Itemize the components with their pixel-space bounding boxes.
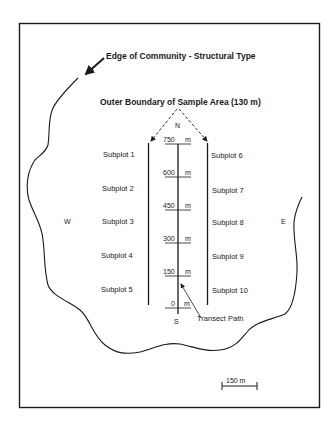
subplot-3-label: Subplot 3 [102,217,134,226]
subplot-6-label: Subplot 6 [211,151,243,160]
subplot-1-label: Subplot 1 [103,150,135,159]
marker-150-unit: m [185,267,191,276]
scale-bar-label: 150 m [226,376,245,385]
subplot-4-label: Subplot 4 [101,251,133,260]
edge-of-community-label: Edge of Community - Structural Type [106,52,256,61]
marker-450-value: 450 [163,201,175,210]
subplot-2-label: Subplot 2 [102,184,134,193]
marker-0-value: 0 [171,299,175,308]
marker-0-unit: m [184,299,190,308]
subplot-5-label: Subplot 5 [101,285,133,294]
diagram-canvas [0,0,332,429]
marker-150-value: 150 [163,267,175,276]
marker-600-unit: m [185,168,191,177]
boundary-arrow-right [179,109,207,141]
outer-boundary-label: Outer Boundary of Sample Area (130 m) [100,98,261,107]
transect-sampling-diagram: Edge of Community - Structural Type Oute… [0,0,332,429]
marker-750-value: 750 [163,135,175,144]
marker-300-value: 300 [163,234,175,243]
subplot-10-label: Subplot 10 [212,286,248,295]
compass-south: S [174,317,179,326]
subplot-9-label: Subplot 9 [212,252,244,261]
figure-frame [20,24,320,408]
marker-300-unit: m [185,234,191,243]
marker-450-unit: m [185,201,191,210]
subplot-8-label: Subplot 8 [212,218,244,227]
transect-path-label: Transect Path [197,314,243,323]
compass-north: N [175,121,180,130]
compass-east: E [281,217,286,226]
subplot-7-label: Subplot 7 [212,186,244,195]
compass-west: W [64,217,71,226]
marker-750-unit: m [185,135,191,144]
marker-600-value: 600 [163,168,175,177]
community-edge-curve [27,78,302,353]
edge-pointer-arrow [86,58,104,74]
